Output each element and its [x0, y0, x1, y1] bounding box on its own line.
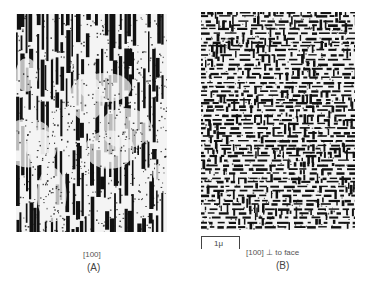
panel-b-orientation-label: [100] ⊥ to face: [246, 248, 299, 257]
scale-bar-label: 1μ: [214, 239, 223, 248]
micrograph-b: [201, 12, 355, 230]
panel-a-orientation-label: [100]: [83, 250, 101, 259]
panel-a-caption: (A): [87, 262, 100, 273]
micrograph-a: [16, 14, 167, 232]
micrograph-a-texture: [16, 14, 167, 232]
panel-b-caption: (B): [276, 260, 289, 271]
micrograph-b-texture: [201, 12, 355, 230]
